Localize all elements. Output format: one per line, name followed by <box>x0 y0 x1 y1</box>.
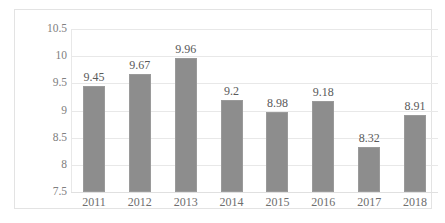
plot-area: 9.459.679.969.28.989.188.328.91 <box>71 29 438 192</box>
x-tick-label: 2013 <box>163 196 209 208</box>
bar-value-label: 9.45 <box>83 71 104 83</box>
x-tick-label: 2016 <box>300 196 346 208</box>
bar[interactable] <box>221 100 243 192</box>
bar[interactable] <box>175 58 197 192</box>
y-tick-label: 10.5 <box>25 23 67 35</box>
x-tick-label: 2011 <box>71 196 117 208</box>
y-tick-label: 9 <box>25 105 67 117</box>
bar[interactable] <box>312 101 334 192</box>
bar[interactable] <box>358 147 380 192</box>
bar-slot: 9.45 <box>71 29 117 192</box>
bar-slot: 9.2 <box>209 29 255 192</box>
x-tick-label: 2017 <box>346 196 392 208</box>
bar-value-label: 9.18 <box>313 86 334 98</box>
y-tick-label: 7.5 <box>25 186 67 198</box>
x-tick-label: 2014 <box>209 196 255 208</box>
bar[interactable] <box>129 74 151 192</box>
x-tick-label: 2012 <box>117 196 163 208</box>
y-tick-label: 9.5 <box>25 78 67 90</box>
bar-slot: 8.91 <box>392 29 438 192</box>
bar[interactable] <box>266 112 288 192</box>
bar-slot: 9.18 <box>300 29 346 192</box>
x-tick-label: 2015 <box>255 196 301 208</box>
y-axis-tick-labels: 10.5 10 9.5 9 8.5 8 7.5 <box>21 29 67 192</box>
bar-value-label: 8.32 <box>359 132 380 144</box>
bar-value-label: 8.98 <box>267 97 288 109</box>
bar-slot: 8.98 <box>255 29 301 192</box>
bar-slot: 8.32 <box>346 29 392 192</box>
bar-slot: 9.67 <box>117 29 163 192</box>
bar-slot: 9.96 <box>163 29 209 192</box>
y-tick-label: 8 <box>25 159 67 171</box>
chart-frame: 10.5 10 9.5 9 8.5 8 7.5 9.459.679.969.28… <box>14 9 432 209</box>
x-axis-tick-labels: 20112012201320142015201620172018 <box>71 196 438 216</box>
bar-value-label: 9.67 <box>129 59 150 71</box>
bar-value-label: 9.2 <box>224 85 239 97</box>
bar[interactable] <box>83 86 105 192</box>
y-tick-label: 10 <box>25 50 67 62</box>
gridline <box>71 192 438 193</box>
bar-value-label: 9.96 <box>175 43 196 55</box>
y-tick-label: 8.5 <box>25 132 67 144</box>
x-tick-label: 2018 <box>392 196 438 208</box>
bar[interactable] <box>404 115 426 192</box>
bar-value-label: 8.91 <box>405 100 426 112</box>
